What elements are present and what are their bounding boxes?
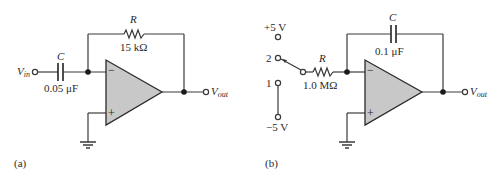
resistor-a-icon bbox=[124, 30, 144, 38]
capacitor-b-value: 0.1 μF bbox=[375, 46, 404, 57]
resistor-b-name: R bbox=[319, 53, 326, 64]
junction-a-input bbox=[85, 69, 91, 75]
plus5v-label: +5 V bbox=[264, 22, 286, 33]
vin-label-a: Vin bbox=[17, 66, 30, 79]
junction-b-output bbox=[440, 89, 446, 95]
switch-common-terminal bbox=[300, 69, 305, 74]
capacitor-a-name: C bbox=[57, 51, 64, 62]
minus5v-terminal bbox=[275, 114, 280, 119]
junction-b-input bbox=[344, 69, 350, 75]
resistor-b-value: 1.0 MΩ bbox=[303, 80, 337, 91]
minus5v-label: −5 V bbox=[266, 122, 288, 133]
switch-pos2-label: 2 bbox=[266, 53, 272, 64]
ground-b-icon bbox=[339, 142, 355, 148]
vout-terminal-b bbox=[462, 89, 467, 94]
vout-terminal-a bbox=[203, 89, 208, 94]
capacitor-a-value: 0.05 μF bbox=[44, 83, 78, 94]
vout-label-b: Vout bbox=[470, 86, 487, 99]
vout-label-a: Vout bbox=[211, 86, 228, 99]
capacitor-a-icon bbox=[58, 63, 63, 81]
opamp-a-noninverting: + bbox=[108, 107, 115, 119]
opamp-b-inverting: − bbox=[367, 64, 374, 76]
opamp-a-inverting: − bbox=[108, 64, 115, 76]
plus5v-terminal bbox=[275, 34, 280, 39]
switch-pos1-terminal bbox=[275, 80, 280, 85]
caption-a: (a) bbox=[14, 158, 26, 169]
vin-terminal-a bbox=[32, 69, 37, 74]
resistor-a-name: R bbox=[130, 14, 137, 25]
switch-pos2-terminal bbox=[275, 55, 280, 60]
caption-b: (b) bbox=[265, 158, 278, 169]
capacitor-b-icon bbox=[391, 25, 396, 43]
switch-pos1-label: 1 bbox=[266, 78, 272, 89]
resistor-b-icon bbox=[313, 68, 333, 76]
capacitor-b-name: C bbox=[389, 12, 396, 23]
junction-a-output bbox=[181, 89, 187, 95]
opamp-b-noninverting: + bbox=[367, 107, 374, 119]
resistor-a-value: 15 kΩ bbox=[120, 42, 147, 53]
ground-a-icon bbox=[80, 142, 96, 148]
